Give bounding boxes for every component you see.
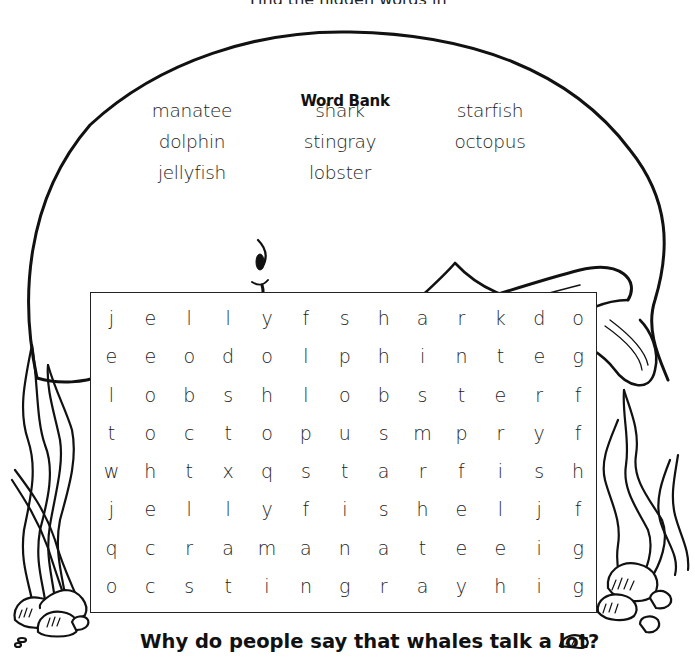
grid-letter[interactable]: s xyxy=(209,376,248,414)
grid-letter[interactable]: j xyxy=(520,490,559,528)
grid-letter[interactable]: c xyxy=(131,567,170,605)
grid-letter[interactable]: f xyxy=(559,490,598,528)
grid-letter[interactable]: e xyxy=(481,376,520,414)
grid-letter[interactable]: t xyxy=(92,414,131,452)
grid-letter[interactable]: h xyxy=(364,299,403,337)
grid-letter[interactable]: o xyxy=(131,376,170,414)
grid-letter[interactable]: o xyxy=(325,376,364,414)
grid-letter[interactable]: s xyxy=(364,414,403,452)
grid-letter[interactable]: l xyxy=(92,376,131,414)
grid-letter[interactable]: l xyxy=(209,490,248,528)
grid-letter[interactable]: a xyxy=(403,567,442,605)
grid-letter[interactable]: e xyxy=(131,299,170,337)
grid-letter[interactable]: g xyxy=(559,529,598,567)
grid-letter[interactable]: d xyxy=(520,299,559,337)
grid-letter[interactable]: o xyxy=(131,414,170,452)
grid-letter[interactable]: a xyxy=(364,452,403,490)
grid-letter[interactable]: j xyxy=(92,299,131,337)
grid-letter[interactable]: b xyxy=(170,376,209,414)
grid-letter[interactable]: r xyxy=(170,529,209,567)
grid-letter[interactable]: h xyxy=(481,567,520,605)
grid-letter[interactable]: n xyxy=(286,567,325,605)
grid-letter[interactable]: m xyxy=(248,529,287,567)
grid-letter[interactable]: s xyxy=(170,567,209,605)
grid-letter[interactable]: p xyxy=(442,414,481,452)
grid-letter[interactable]: t xyxy=(481,337,520,375)
grid-letter[interactable]: b xyxy=(364,376,403,414)
grid-letter[interactable]: f xyxy=(286,490,325,528)
grid-letter[interactable]: s xyxy=(286,452,325,490)
grid-letter[interactable]: l xyxy=(170,299,209,337)
grid-letter[interactable]: h xyxy=(248,376,287,414)
grid-letter[interactable]: i xyxy=(403,337,442,375)
grid-letter[interactable]: t xyxy=(170,452,209,490)
grid-letter[interactable]: y xyxy=(520,414,559,452)
grid-letter[interactable]: j xyxy=(92,490,131,528)
grid-letter[interactable]: l xyxy=(209,299,248,337)
grid-letter[interactable]: u xyxy=(325,414,364,452)
grid-letter[interactable]: a xyxy=(286,529,325,567)
grid-letter[interactable]: o xyxy=(170,337,209,375)
grid-letter[interactable]: q xyxy=(92,529,131,567)
grid-letter[interactable]: o xyxy=(248,337,287,375)
grid-letter[interactable]: t xyxy=(325,452,364,490)
grid-letter[interactable]: s xyxy=(403,376,442,414)
grid-letter[interactable]: i xyxy=(520,567,559,605)
grid-letter[interactable]: t xyxy=(403,529,442,567)
grid-letter[interactable]: y xyxy=(248,490,287,528)
grid-letter[interactable]: y xyxy=(248,299,287,337)
grid-letter[interactable]: h xyxy=(131,452,170,490)
grid-letter[interactable]: e xyxy=(131,490,170,528)
grid-letter[interactable]: s xyxy=(364,490,403,528)
grid-letter[interactable]: p xyxy=(286,414,325,452)
grid-letter[interactable]: f xyxy=(559,414,598,452)
grid-letter[interactable]: f xyxy=(442,452,481,490)
grid-letter[interactable]: l xyxy=(481,490,520,528)
grid-letter[interactable]: r xyxy=(442,299,481,337)
grid-letter[interactable]: l xyxy=(286,337,325,375)
grid-letter[interactable]: h xyxy=(403,490,442,528)
grid-letter[interactable]: a xyxy=(364,529,403,567)
grid-letter[interactable]: e xyxy=(92,337,131,375)
grid-letter[interactable]: c xyxy=(131,529,170,567)
grid-letter[interactable]: r xyxy=(520,376,559,414)
grid-letter[interactable]: l xyxy=(286,376,325,414)
grid-letter[interactable]: o xyxy=(92,567,131,605)
grid-letter[interactable]: s xyxy=(325,299,364,337)
grid-letter[interactable]: m xyxy=(403,414,442,452)
grid-letter[interactable]: n xyxy=(325,529,364,567)
grid-letter[interactable]: g xyxy=(559,567,598,605)
grid-letter[interactable]: e xyxy=(481,529,520,567)
grid-letter[interactable]: e xyxy=(520,337,559,375)
grid-letter[interactable]: h xyxy=(364,337,403,375)
grid-letter[interactable]: e xyxy=(131,337,170,375)
grid-letter[interactable]: g xyxy=(325,567,364,605)
grid-letter[interactable]: t xyxy=(442,376,481,414)
grid-letter[interactable]: a xyxy=(403,299,442,337)
grid-letter[interactable]: f xyxy=(286,299,325,337)
grid-letter[interactable]: r xyxy=(364,567,403,605)
grid-letter[interactable]: i xyxy=(325,490,364,528)
grid-letter[interactable]: n xyxy=(442,337,481,375)
grid-letter[interactable]: y xyxy=(442,567,481,605)
grid-letter[interactable]: k xyxy=(481,299,520,337)
grid-letter[interactable]: c xyxy=(170,414,209,452)
grid-letter[interactable]: p xyxy=(325,337,364,375)
grid-letter[interactable]: i xyxy=(248,567,287,605)
grid-letter[interactable]: t xyxy=(209,567,248,605)
grid-letter[interactable]: w xyxy=(92,452,131,490)
grid-letter[interactable]: o xyxy=(559,299,598,337)
grid-letter[interactable]: g xyxy=(559,337,598,375)
grid-letter[interactable]: t xyxy=(209,414,248,452)
grid-letter[interactable]: r xyxy=(481,414,520,452)
grid-letter[interactable]: a xyxy=(209,529,248,567)
grid-letter[interactable]: r xyxy=(403,452,442,490)
grid-letter[interactable]: f xyxy=(559,376,598,414)
grid-letter[interactable]: i xyxy=(481,452,520,490)
grid-letter[interactable]: h xyxy=(559,452,598,490)
grid-letter[interactable]: o xyxy=(248,414,287,452)
grid-letter[interactable]: l xyxy=(170,490,209,528)
grid-letter[interactable]: e xyxy=(442,490,481,528)
grid-letter[interactable]: q xyxy=(248,452,287,490)
grid-letter[interactable]: x xyxy=(209,452,248,490)
